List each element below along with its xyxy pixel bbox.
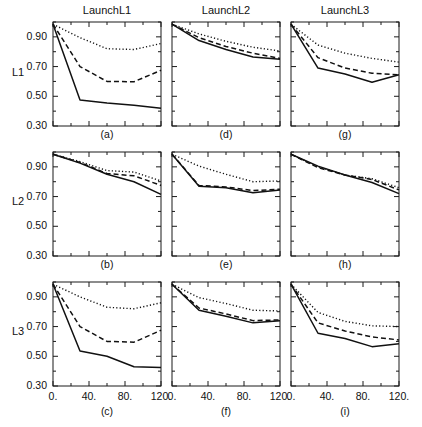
ytick-label: 0.90 bbox=[5, 290, 47, 302]
plot-panel-i bbox=[283, 274, 407, 394]
plot-panel-h bbox=[283, 144, 407, 264]
ytick-label: 0.50 bbox=[5, 349, 47, 361]
xtick-label: 0. bbox=[154, 390, 190, 402]
ytick-label: 0.50 bbox=[5, 219, 47, 231]
plot-panel-c bbox=[45, 274, 169, 394]
ytick-label: 0.30 bbox=[5, 119, 47, 131]
ytick-label: 0.90 bbox=[5, 30, 47, 42]
plot-panel-g bbox=[283, 14, 407, 134]
plot-panel-b bbox=[45, 144, 169, 264]
xtick-label: 40. bbox=[190, 390, 226, 402]
ytick-label: 0.70 bbox=[5, 60, 47, 72]
ytick-label: 0.70 bbox=[5, 190, 47, 202]
ytick-label: 0.90 bbox=[5, 160, 47, 172]
xtick-label: 40. bbox=[71, 390, 107, 402]
panel-letter-f: (f) bbox=[172, 405, 280, 417]
ytick-label: 0.50 bbox=[5, 89, 47, 101]
xtick-label: 80. bbox=[226, 390, 262, 402]
plot-panel-f bbox=[164, 274, 288, 394]
panel-letter-i: (i) bbox=[291, 405, 399, 417]
xtick-label: 0. bbox=[35, 390, 71, 402]
xtick-label: 120. bbox=[381, 390, 417, 402]
xtick-label: 80. bbox=[345, 390, 381, 402]
ytick-label: 0.70 bbox=[5, 320, 47, 332]
figure-panel-grid: LaunchL1 LaunchL2 LaunchL3 L1 L2 L3 (a) … bbox=[0, 0, 422, 427]
panel-letter-c: (c) bbox=[53, 405, 161, 417]
xtick-label: 0. bbox=[273, 390, 309, 402]
plot-panel-d bbox=[164, 14, 288, 134]
xtick-label: 80. bbox=[107, 390, 143, 402]
ytick-label: 0.30 bbox=[5, 249, 47, 261]
plot-panel-e bbox=[164, 144, 288, 264]
xtick-label: 40. bbox=[309, 390, 345, 402]
plot-panel-a bbox=[45, 14, 169, 134]
